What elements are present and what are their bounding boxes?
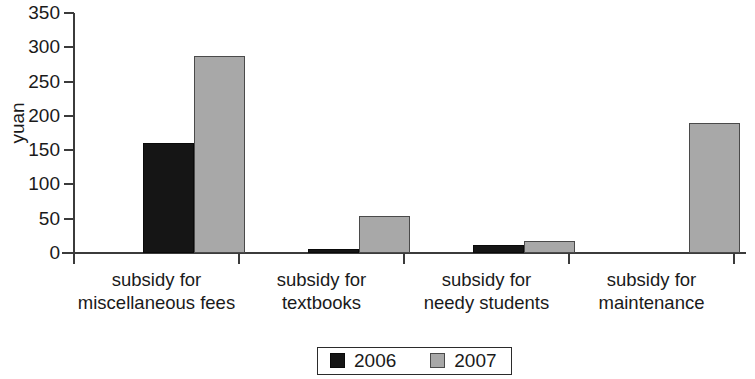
y-axis-tick-value: 200: [4, 106, 60, 125]
category-label-3: subsidy forneedy students: [398, 268, 575, 314]
plot-area: [74, 13, 734, 253]
y-axis-tick-label: 350: [0, 3, 60, 22]
y-axis-tick-value: 350: [4, 3, 60, 22]
category-label-line: miscellaneous fees: [68, 291, 245, 314]
bar-2006-1: [143, 143, 194, 253]
category-label-line: subsidy for: [68, 268, 245, 291]
legend-item-2007: 2007: [430, 351, 496, 370]
y-axis-tick-value: 0: [4, 243, 60, 262]
x-axis-tick-mark: [238, 253, 240, 264]
category-label-2: subsidy fortextbooks: [233, 268, 410, 314]
x-axis-tick-mark: [568, 253, 570, 264]
legend-label: 2006: [354, 351, 396, 370]
legend-item-2006: 2006: [330, 351, 396, 370]
y-axis-tick-label: 300: [0, 37, 60, 56]
y-axis-tick-label: 50: [0, 209, 60, 228]
bar-2006-2: [308, 249, 359, 253]
bar-2007-3: [524, 241, 575, 253]
bar-2006-3: [473, 245, 524, 253]
y-axis-tick-label: 150: [0, 140, 60, 159]
y-axis-tick-value: 250: [4, 72, 60, 91]
black-square-swatch: [330, 353, 345, 368]
category-label-4: subsidy formaintenance: [563, 268, 740, 314]
y-axis-tick-value: 50: [4, 209, 60, 228]
x-axis-tick-mark: [73, 253, 75, 264]
category-label-line: subsidy for: [233, 268, 410, 291]
y-axis-tick-label: 0: [0, 243, 60, 262]
y-axis-tick-label: 250: [0, 72, 60, 91]
bar-2007-1: [194, 56, 245, 253]
category-label-line: subsidy for: [563, 268, 740, 291]
category-label-line: textbooks: [233, 291, 410, 314]
category-label-line: maintenance: [563, 291, 740, 314]
x-axis-tick-mark: [403, 253, 405, 264]
y-axis-tick-label: 100: [0, 174, 60, 193]
bar-chart: yuan 050100150200250300350 subsidy formi…: [0, 0, 755, 379]
gray-square-swatch: [430, 353, 445, 368]
y-axis-tick-value: 300: [4, 37, 60, 56]
x-axis-tick-mark: [733, 253, 735, 264]
y-axis-tick-label: 200: [0, 106, 60, 125]
category-label-1: subsidy formiscellaneous fees: [68, 268, 245, 314]
bar-2007-2: [359, 216, 410, 253]
bar-2007-4: [689, 123, 740, 253]
chart-legend: 20062007: [317, 347, 512, 375]
y-axis-tick-value: 100: [4, 174, 60, 193]
legend-label: 2007: [454, 351, 496, 370]
category-label-line: needy students: [398, 291, 575, 314]
y-axis-tick-value: 150: [4, 140, 60, 159]
category-label-line: subsidy for: [398, 268, 575, 291]
